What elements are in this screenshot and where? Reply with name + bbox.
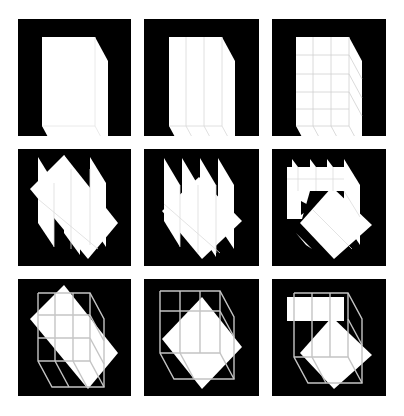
rotated-slabs-shifted-shape [144,149,259,266]
slabs-with-wireframe-shape [18,279,131,396]
panel-r1c1 [18,19,131,136]
panel-r2c1 [18,149,131,266]
panel-r3c3 [272,279,386,396]
panel-r1c3 [272,19,386,136]
rotated-slabs-top-block-shape [272,149,386,266]
panel-r3c2 [144,279,259,396]
panel-r2c3 [272,149,386,266]
panel-r1c2 [144,19,259,136]
panel-r2c2 [144,149,259,266]
top-block-with-wireframe-shape [272,279,386,396]
rotated-slabs-shape [18,149,131,266]
solid-cube-shape [18,19,131,136]
panel-r3c1 [18,279,131,396]
grid-cube-shape [272,19,386,136]
sliced-cube-shape [144,19,259,136]
slabs-with-wireframe-shifted-shape [144,279,259,396]
